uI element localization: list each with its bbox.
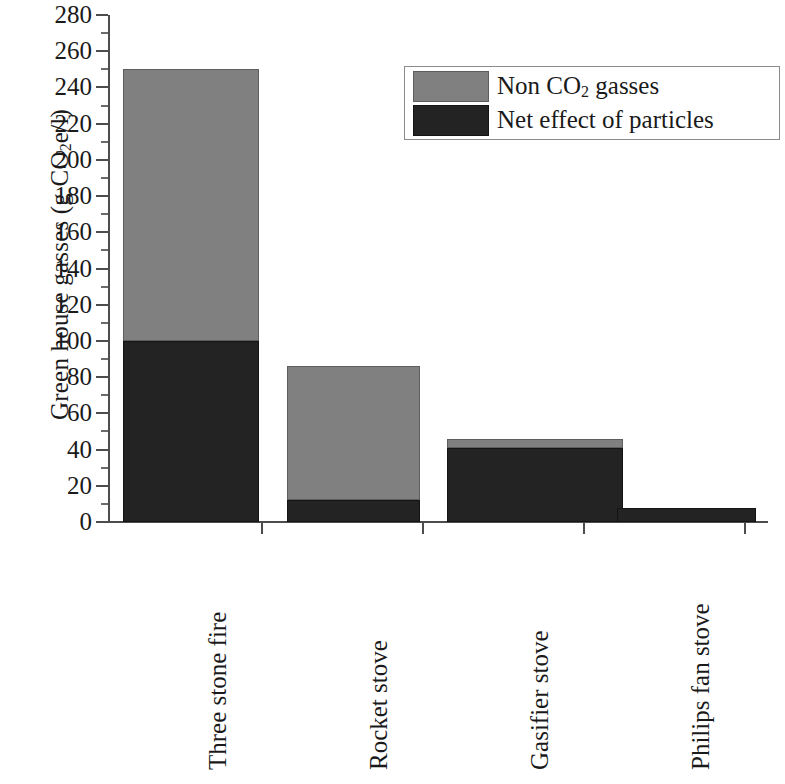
y-tick-minor xyxy=(101,249,108,251)
x-tick xyxy=(583,523,585,534)
y-tick-major xyxy=(96,231,108,233)
y-tick-major xyxy=(96,376,108,378)
bar-segment-non-co2-gasses xyxy=(287,366,420,500)
bar-chart: Green house gasses (g CO2e/l) 0204060801… xyxy=(0,0,785,784)
legend-label-non-co2-gasses: Non CO2 gasses xyxy=(497,73,659,100)
y-tick-minor xyxy=(101,105,108,107)
y-tick-label: 140 xyxy=(30,256,92,281)
y-tick-minor xyxy=(101,32,108,34)
y-tick-major xyxy=(96,412,108,414)
bar-segment-non-co2-gasses xyxy=(123,69,259,341)
x-tick xyxy=(744,523,746,534)
y-tick-label: 60 xyxy=(30,400,92,425)
y-tick-minor xyxy=(101,430,108,432)
x-tick xyxy=(261,523,263,534)
legend: Non CO2 gasses Net effect of particles xyxy=(404,66,780,140)
legend-item-non-co2-gasses: Non CO2 gasses xyxy=(413,71,659,102)
y-tick-label: 160 xyxy=(30,219,92,244)
y-tick-minor xyxy=(101,394,108,396)
x-axis-label-rocket-stove: Rocket stove xyxy=(366,640,391,770)
y-tick-minor xyxy=(101,358,108,360)
y-tick-label: 200 xyxy=(30,147,92,172)
y-tick-minor xyxy=(101,213,108,215)
y-tick-label: 280 xyxy=(30,2,92,27)
y-tick-minor xyxy=(101,286,108,288)
y-tick-major xyxy=(96,340,108,342)
y-tick-major xyxy=(96,123,108,125)
legend-swatch-net-effect-of-particles xyxy=(413,105,489,136)
y-tick-minor xyxy=(101,503,108,505)
legend-label-net-effect-of-particles: Net effect of particles xyxy=(497,107,714,134)
x-axis-label-philips-fan-stove: Philips fan stove xyxy=(688,603,713,770)
y-tick-minor xyxy=(101,68,108,70)
bar-segment-net-effect-of-particles xyxy=(447,448,623,522)
y-tick-label: 260 xyxy=(30,38,92,63)
bar-segment-net-effect-of-particles xyxy=(287,500,420,522)
y-tick-minor xyxy=(101,322,108,324)
bar-segment-net-effect-of-particles xyxy=(617,508,756,522)
y-tick-label: 40 xyxy=(30,437,92,462)
y-tick-minor xyxy=(101,141,108,143)
x-tick xyxy=(422,523,424,534)
y-tick-major xyxy=(96,14,108,16)
legend-swatch-non-co2-gasses xyxy=(413,71,489,102)
y-tick-label: 120 xyxy=(30,292,92,317)
y-tick-major xyxy=(96,195,108,197)
y-tick-label: 0 xyxy=(30,509,92,534)
y-tick-label: 20 xyxy=(30,473,92,498)
y-tick-label: 180 xyxy=(30,183,92,208)
y-tick-minor xyxy=(101,177,108,179)
bar-segment-non-co2-gasses xyxy=(447,439,623,448)
y-tick-label: 240 xyxy=(30,74,92,99)
y-tick-major xyxy=(96,449,108,451)
x-axis-label-gasifier-stove: Gasifier stove xyxy=(527,630,552,770)
y-tick-label: 100 xyxy=(30,328,92,353)
y-tick-major xyxy=(96,521,108,523)
y-tick-major xyxy=(96,86,108,88)
y-tick-label: 220 xyxy=(30,111,92,136)
y-axis-line xyxy=(108,15,110,523)
y-tick-major xyxy=(96,268,108,270)
bar-segment-net-effect-of-particles xyxy=(123,341,259,522)
y-tick-major xyxy=(96,159,108,161)
y-tick-label: 80 xyxy=(30,364,92,389)
y-tick-major xyxy=(96,50,108,52)
y-tick-major xyxy=(96,304,108,306)
legend-item-net-effect-of-particles: Net effect of particles xyxy=(413,105,714,136)
x-axis-label-three-stone-fire: Three stone fire xyxy=(205,612,230,770)
y-tick-major xyxy=(96,485,108,487)
y-tick-minor xyxy=(101,467,108,469)
